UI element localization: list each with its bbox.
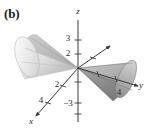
x-tick-label-2: 2 — [55, 79, 60, 89]
cone-right-nappe — [78, 57, 141, 101]
x-tick-label-4: 4 — [39, 95, 44, 105]
z-tick-label-3: 3 — [66, 33, 71, 43]
y-tick-label-4: 4 — [117, 87, 122, 97]
x-axis-label: x — [28, 116, 33, 126]
cone-plot: z y x 3 2 −3 2 4 4 — [0, 0, 149, 129]
figure-panel: (b) — [0, 0, 149, 129]
z-axis-label: z — [75, 6, 80, 16]
z-tick-label-2: 2 — [66, 48, 71, 58]
x-axis-line-positive-back — [78, 46, 110, 68]
y-axis-label: y — [138, 80, 143, 90]
z-tick-label-minus-3: −3 — [63, 98, 73, 108]
